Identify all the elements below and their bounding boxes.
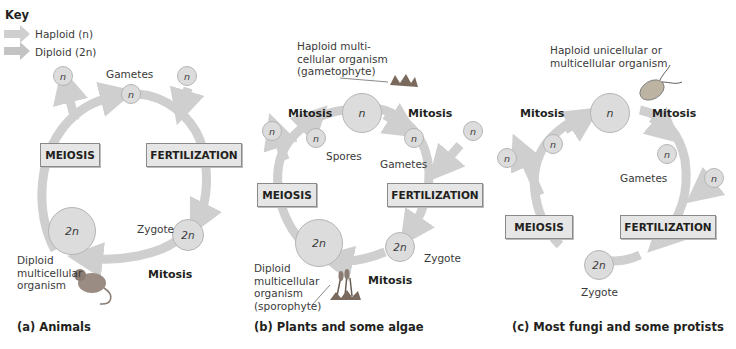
key-label-diploid: Diploid (2n) xyxy=(35,46,96,59)
mitosis-left-label: Mitosis xyxy=(520,107,564,120)
mitosis-bottom-label: Mitosis xyxy=(368,274,412,287)
protist-illustration xyxy=(636,65,682,104)
diploid-organism-cell: 2n xyxy=(48,207,96,255)
sporophyte-label: Diploid multicellular organism (sporophy… xyxy=(254,262,321,312)
mitosis-right-label: Mitosis xyxy=(408,107,452,120)
panel-a-arc-bottom xyxy=(85,238,180,259)
zygote-label: Zygote xyxy=(424,252,461,265)
panel-caption: (a) Animals xyxy=(17,320,91,334)
gamete-cell: n xyxy=(404,128,424,148)
diploid-organism-label: Diploid multicellular organism xyxy=(17,254,82,292)
haploid-organism-label: Haploid unicellular or multicellular org… xyxy=(550,44,668,69)
fertilization-box: FERTILIZATION xyxy=(620,215,716,239)
sporophyte-cell: 2n xyxy=(295,219,343,267)
key-label-haploid: Haploid (n) xyxy=(35,28,96,41)
mitosis-right-label: Mitosis xyxy=(652,107,696,120)
gametes-label: Gametes xyxy=(106,68,153,81)
haploid-cell: n xyxy=(177,66,197,86)
gametophyte-label: Haploid multi- cellular organism (gameto… xyxy=(297,40,388,78)
haploid-organism-cell: n xyxy=(590,93,630,133)
panel-b-arc-bottom xyxy=(335,252,385,261)
gametes-label: Gametes xyxy=(620,172,667,185)
haploid-cell: n xyxy=(463,121,483,141)
fertilization-box: FERTILIZATION xyxy=(146,143,242,167)
panel-caption: (c) Most fungi and some protists xyxy=(512,320,724,334)
zygote-cell: 2n xyxy=(584,250,614,280)
zygote-label: Zygote xyxy=(581,286,618,299)
zygote-cell: 2n xyxy=(172,219,204,251)
key-title: Key xyxy=(5,8,96,22)
zygote-label: Zygote xyxy=(137,223,174,236)
gametes-label: Gametes xyxy=(380,158,427,171)
haploid-cell: n xyxy=(497,148,517,168)
key-legend: Key Haploid (n) Diploid (2n) xyxy=(5,8,96,58)
haploid-cell: n xyxy=(704,168,724,188)
gamete-cell: n xyxy=(657,144,677,164)
spores-label: Spores xyxy=(326,150,362,163)
mitosis-label: Mitosis xyxy=(148,268,192,281)
haploid-cell: n xyxy=(543,134,563,154)
haploid-cell: n xyxy=(53,66,73,86)
spore-cell: n xyxy=(306,128,326,148)
fertilization-box: FERTILIZATION xyxy=(387,183,483,207)
haploid-cell: n xyxy=(121,84,141,104)
meiosis-box: MEIOSIS xyxy=(505,215,573,239)
mitosis-left-label: Mitosis xyxy=(288,107,332,120)
zygote-cell: 2n xyxy=(385,232,415,262)
panel-caption: (b) Plants and some algae xyxy=(254,320,424,334)
meiosis-box: MEIOSIS xyxy=(40,143,100,167)
gametophyte-cell: n xyxy=(342,93,382,133)
meiosis-box: MEIOSIS xyxy=(257,183,317,207)
haploid-cell: n xyxy=(262,121,282,141)
